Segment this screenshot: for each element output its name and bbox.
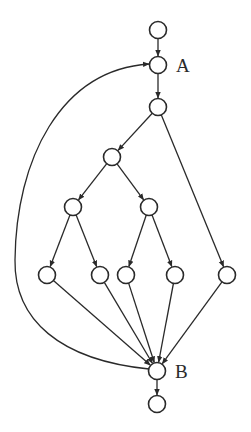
node-B <box>149 363 166 380</box>
edges-group <box>50 39 223 396</box>
edge-n2-to-n10 <box>161 115 223 267</box>
graph-diagram: A B <box>0 0 251 432</box>
edge-n8-to-B <box>129 283 155 362</box>
edge-n6-to-B <box>53 281 150 365</box>
node-n4 <box>65 199 82 216</box>
node-n6 <box>39 267 56 284</box>
edge-n5-to-n9 <box>152 215 172 267</box>
node-A <box>150 57 167 74</box>
node-n0 <box>150 22 167 39</box>
node-n12 <box>149 396 166 413</box>
node-label-b: B <box>175 361 188 382</box>
edge-n9-to-B <box>159 283 174 362</box>
edge-n7-to-B <box>104 282 152 363</box>
node-n8 <box>118 267 135 284</box>
edge-n4-to-n6 <box>50 215 70 267</box>
node-n7 <box>92 267 109 284</box>
node-n2 <box>150 99 167 116</box>
node-n3 <box>104 149 121 166</box>
node-n9 <box>167 267 184 284</box>
edge-n4-to-n7 <box>76 215 97 267</box>
node-n5 <box>141 199 158 216</box>
edge-n3-to-n4 <box>79 164 107 200</box>
node-label-a: A <box>176 55 190 76</box>
edge-n3-to-n5 <box>117 164 144 200</box>
node-n10 <box>219 267 236 284</box>
edge-n2-to-n3 <box>118 113 152 150</box>
edge-n5-to-n8 <box>129 215 146 266</box>
